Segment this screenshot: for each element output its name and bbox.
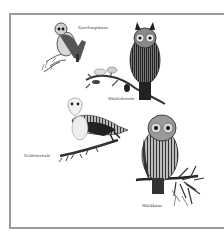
barn-owl-illustration [59, 98, 128, 162]
caption-schleiereule: Schleiereule [24, 153, 51, 158]
caption-waldohreule: Waldohreule [108, 96, 135, 101]
eared-owl-illustration [86, 22, 165, 104]
caption-waldkauz: Waldkauz [142, 203, 162, 208]
small-owl-illustration [42, 23, 86, 72]
owl-illustrations [0, 0, 224, 238]
tawny-owl-illustration [136, 115, 204, 206]
caption-sperlingskauz: Sperlingskauz [78, 25, 108, 30]
